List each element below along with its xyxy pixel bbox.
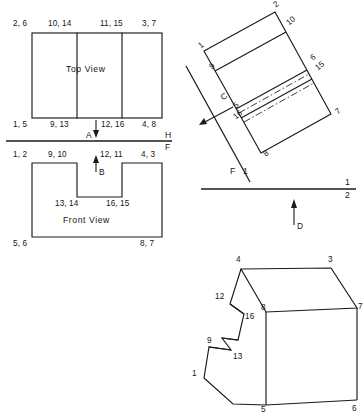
direction-arrow-b-label: B [99, 168, 105, 176]
iso-view-label-5: 5 [261, 406, 266, 413]
auxiliary-view-outline [204, 12, 331, 153]
top-view-label-11-15: 11, 15 [100, 20, 123, 28]
iso-view-label-12: 12 [215, 293, 224, 301]
top-view-label-10-14: 10, 14 [48, 20, 71, 28]
top-view-label-3-7: 3, 7 [142, 20, 156, 28]
front-view-label-1-2: 1, 2 [13, 151, 27, 159]
front-view-label-5-6: 5, 6 [13, 240, 27, 248]
direction-arrow-a-label: A [86, 131, 92, 139]
iso-view-label-4: 4 [236, 256, 241, 264]
top-view-label-12-16: 12, 16 [101, 121, 124, 129]
arrow-a [93, 120, 99, 138]
top-view-label-2-6: 2, 6 [13, 20, 27, 28]
top-view-label-1-5: 1, 5 [13, 121, 27, 129]
iso-view-label-1: 1 [192, 370, 197, 378]
top-view-outline [32, 33, 162, 118]
direction-arrow-d-label: D [297, 222, 303, 230]
front-view-outline [32, 163, 162, 237]
front-view-title: Front View [63, 216, 110, 225]
iso-view-label-7: 7 [358, 303, 363, 311]
reference-line-12-upper-label: 1 [345, 178, 350, 187]
top-view-label-4-8: 4, 8 [142, 121, 156, 129]
drawing-sheet: 2, 6 10, 14 11, 15 3, 7 Top View 1, 5 9,… [0, 0, 364, 413]
arrow-c [199, 107, 233, 125]
front-view-label-16-15: 16, 15 [106, 200, 129, 208]
front-view-label-8-7: 8, 7 [140, 240, 154, 248]
isometric-view-outline [204, 268, 357, 405]
iso-view-label-9: 9 [207, 337, 212, 345]
iso-view-label-6: 6 [352, 405, 357, 413]
reference-line-12-lower-label: 2 [345, 191, 350, 200]
fold-line-f1-lower-label: 1 [243, 167, 248, 176]
iso-view-label-3: 3 [328, 256, 333, 264]
fold-line-f1 [186, 66, 250, 182]
top-view-title: Top View [66, 65, 106, 74]
iso-view-label-8: 8 [261, 304, 266, 312]
front-view-label-12-11: 12, 11 [100, 151, 123, 159]
iso-view-label-13: 13 [233, 353, 242, 361]
front-view-label-13-14: 13, 14 [55, 200, 78, 208]
fold-line-hf-lower-label: F [165, 143, 170, 152]
front-view-label-9-10: 9, 10 [48, 151, 67, 159]
iso-view-label-16: 16 [245, 313, 254, 321]
fold-line-f1-upper-label: F [230, 167, 235, 176]
fold-line-hf-upper-label: H [165, 131, 171, 140]
front-view-label-4-3: 4, 3 [141, 151, 155, 159]
top-view-label-9-13: 9, 13 [50, 121, 69, 129]
